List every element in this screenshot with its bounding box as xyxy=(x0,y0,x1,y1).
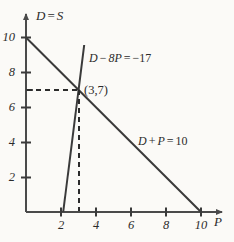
y-tick-label-2: 2 xyxy=(0,171,15,184)
chart-canvas xyxy=(0,0,234,242)
x-tick-label-4: 4 xyxy=(86,219,106,232)
demand-line-equation-label: D+P=10 xyxy=(138,135,188,147)
x-tick-label-10: 10 xyxy=(191,219,211,232)
y-tick-label-4: 4 xyxy=(0,136,15,149)
demand-eq-d: D xyxy=(138,134,147,148)
supply-eq-minus: − xyxy=(100,51,107,65)
x-axis-label: P xyxy=(214,215,222,228)
demand-eq-p: P xyxy=(157,134,164,148)
supply-eq-rhs: −17 xyxy=(133,51,152,65)
demand-eq-plus: + xyxy=(149,134,156,148)
supply-eq-d: D xyxy=(89,51,98,65)
supply-eq-8p: 8P xyxy=(108,51,121,65)
y-axis-label-s: S xyxy=(57,8,64,23)
y-axis-label: D=S xyxy=(36,9,63,22)
supply-line-equation-label: D−8P=−17 xyxy=(89,52,151,64)
x-tick-label-2: 2 xyxy=(51,219,71,232)
y-tick-label-10: 10 xyxy=(0,31,15,44)
supply-line xyxy=(63,45,84,212)
x-tick-label-8: 8 xyxy=(156,219,176,232)
supply-eq-equals: = xyxy=(124,51,131,65)
demand-eq-equals: = xyxy=(167,134,174,148)
y-tick-label-6: 6 xyxy=(0,101,15,114)
intersection-point-label: (3,7) xyxy=(84,84,108,97)
y-axis-label-eq: = xyxy=(47,8,54,23)
demand-eq-rhs: 10 xyxy=(176,134,188,148)
y-axis-label-d: D xyxy=(36,8,45,23)
supply-demand-chart: D=S P 10 8 6 4 2 2 4 6 8 10 D−8P=−17 D+P… xyxy=(0,0,234,242)
y-tick-label-8: 8 xyxy=(0,66,15,79)
x-tick-label-6: 6 xyxy=(121,219,141,232)
